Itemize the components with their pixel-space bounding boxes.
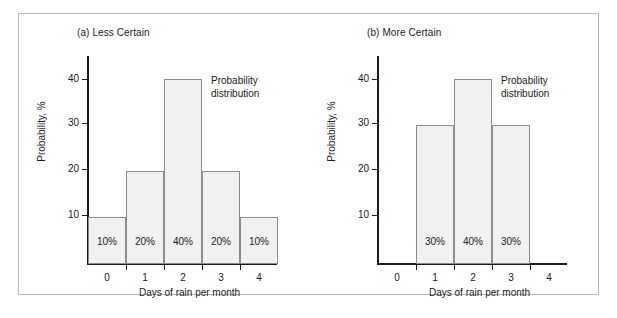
panel-b-xtick-mark-2 bbox=[492, 265, 493, 270]
panel-a-ytick-mark-20 bbox=[82, 169, 88, 170]
chart-panel-a: (a) Less Certain Probability, % 40 30 20… bbox=[19, 14, 309, 296]
panel-b-bar-label-3: 30% bbox=[494, 236, 528, 247]
panel-b-annotation-line2: distribution bbox=[501, 87, 549, 100]
panel-a-ytick-10: 10 bbox=[53, 209, 79, 220]
panel-a-xtick-mark-3 bbox=[240, 265, 241, 270]
panel-b-xtick-mark-0 bbox=[416, 265, 417, 270]
panel-a-ytick-40: 40 bbox=[53, 73, 79, 84]
panel-b-xtick-4: 4 bbox=[537, 272, 561, 283]
panel-a-bar-3 bbox=[202, 171, 240, 264]
panel-b-ytick-30: 30 bbox=[343, 117, 369, 128]
panel-b-xtick-mark-3 bbox=[530, 265, 531, 270]
panel-b-annotation: Probability distribution bbox=[501, 74, 549, 100]
panel-a-ytick-30: 30 bbox=[53, 117, 79, 128]
panel-b-ytick-mark-40 bbox=[372, 79, 378, 80]
panel-a-bar-label-0: 10% bbox=[90, 236, 124, 247]
panel-b-xtick-mark-1 bbox=[454, 265, 455, 270]
panel-a-ytick-mark-40 bbox=[82, 79, 88, 80]
panel-a-x-axis-label: Days of rain per month bbox=[139, 287, 240, 298]
panel-b-ytick-20: 20 bbox=[343, 163, 369, 174]
panel-b-bar-label-2: 40% bbox=[456, 236, 490, 247]
panel-b-ytick-mark-30 bbox=[372, 123, 378, 124]
panel-b-xtick-3: 3 bbox=[499, 272, 523, 283]
panel-a-bar-1 bbox=[126, 171, 164, 264]
panel-b-annotation-line1: Probability bbox=[501, 74, 549, 87]
chart-panel-b: (b) More Certain Probability, % 40 30 20… bbox=[309, 14, 599, 296]
panel-b-title: (b) More Certain bbox=[367, 27, 441, 38]
panel-b-y-axis-line bbox=[377, 56, 379, 264]
panel-a-ytick-mark-30 bbox=[82, 123, 88, 124]
panel-b-ytick-mark-20 bbox=[372, 169, 378, 170]
panel-a-xtick-4: 4 bbox=[247, 272, 271, 283]
panel-b-x-axis-label: Days of rain per month bbox=[429, 287, 530, 298]
panel-b-xtick-2: 2 bbox=[461, 272, 485, 283]
panel-a-annotation: Probability distribution bbox=[211, 74, 259, 100]
panel-a-xtick-3: 3 bbox=[209, 272, 233, 283]
panel-a-annotation-line2: distribution bbox=[211, 87, 259, 100]
panel-a-bar-label-1: 20% bbox=[128, 236, 162, 247]
panel-a-xtick-1: 1 bbox=[133, 272, 157, 283]
panel-a-ytick-mark-10 bbox=[82, 215, 88, 216]
panel-b-xtick-0: 0 bbox=[385, 272, 409, 283]
panel-a-xtick-mark-0 bbox=[126, 265, 127, 270]
panel-a-xtick-0: 0 bbox=[95, 272, 119, 283]
figure-frame: (a) Less Certain Probability, % 40 30 20… bbox=[18, 13, 599, 295]
panel-b-y-axis-label: Probability, % bbox=[326, 82, 337, 182]
panel-a-annotation-line1: Probability bbox=[211, 74, 259, 87]
panel-a-title: (a) Less Certain bbox=[77, 27, 150, 38]
panel-a-bar-label-2: 40% bbox=[166, 236, 200, 247]
panel-a-bar-label-3: 20% bbox=[204, 236, 238, 247]
panel-a-xtick-2: 2 bbox=[171, 272, 195, 283]
panel-b-ytick-40: 40 bbox=[343, 73, 369, 84]
panel-b-ytick-10: 10 bbox=[343, 209, 369, 220]
panel-a-xtick-mark-2 bbox=[202, 265, 203, 270]
panel-a-y-axis-label: Probability, % bbox=[36, 82, 47, 182]
panel-a-xtick-mark-1 bbox=[164, 265, 165, 270]
panel-b-ytick-mark-10 bbox=[372, 215, 378, 216]
panel-a-ytick-20: 20 bbox=[53, 163, 79, 174]
panel-b-bar-label-1: 30% bbox=[418, 236, 452, 247]
panel-a-bar-label-4: 10% bbox=[242, 236, 276, 247]
panel-b-xtick-1: 1 bbox=[423, 272, 447, 283]
